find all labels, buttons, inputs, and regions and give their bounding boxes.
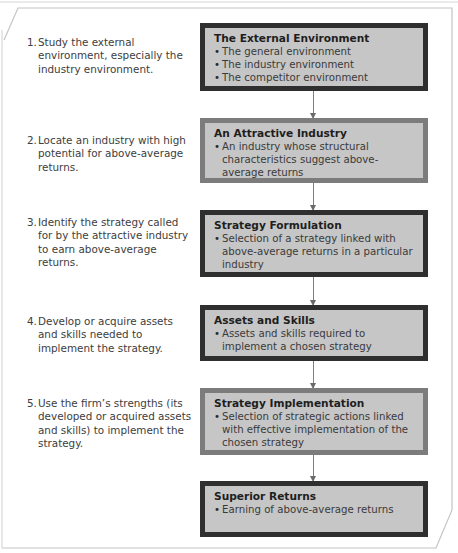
step-text: Develop or acquire assets and skills nee… [27,315,192,355]
step-number: 1. [27,36,37,49]
box-superior-returns: Superior Returns Earning of above-averag… [200,481,428,537]
arrow-down-icon [313,455,314,481]
box-title: Strategy Formulation [214,219,413,232]
bullet-item: Selection of strategic actions linked wi… [214,410,413,449]
bullet-item: Selection of a strategy linked with abov… [214,232,413,271]
arrow-down-icon [313,277,314,305]
step-number: 3. [27,216,37,229]
box-title: An Attractive Industry [214,127,413,140]
arrow-down-icon [313,183,314,210]
arrow-down-icon [313,91,314,118]
step-4: 4. Develop or acquire assets and skills … [27,315,192,355]
step-5: 5. Use the firm’s strengths (its develop… [27,397,192,451]
bullet-item: Assets and skills required to implement … [214,327,413,353]
arrow-down-icon [313,361,314,388]
bullet-item: The general environment [214,45,413,58]
step-number: 2. [27,134,37,147]
box-title: The External Environment [214,32,413,45]
bullet-item: An industry whose structural characteris… [214,140,413,179]
box-attractive-industry: An Attractive Industry An industry whose… [200,118,428,183]
box-bullets: Earning of above-average returns [214,503,413,516]
box-bullets: Assets and skills required to implement … [214,327,413,353]
bullet-item: Earning of above-average returns [214,503,413,516]
step-text: Locate an industry with high potential f… [27,134,192,174]
box-title: Superior Returns [214,490,413,503]
box-title: Assets and Skills [214,314,413,327]
box-title: Strategy Implementation [214,397,413,410]
box-bullets: Selection of strategic actions linked wi… [214,410,413,449]
step-text: Identify the strategy called for by the … [27,216,192,270]
bullet-item: The industry environment [214,58,413,71]
box-bullets: An industry whose structural characteris… [214,140,413,179]
step-1: 1. Study the external environment, espec… [27,36,192,76]
bullet-item: The competitor environment [214,71,413,84]
box-external-environment: The External Environment The general env… [200,23,428,91]
box-bullets: Selection of a strategy linked with abov… [214,232,413,271]
step-text: Study the external environment, especial… [27,36,192,76]
box-bullets: The general environment The industry env… [214,45,413,84]
step-2: 2. Locate an industry with high potentia… [27,134,192,174]
box-strategy-formulation: Strategy Formulation Selection of a stra… [200,210,428,277]
step-number: 4. [27,315,37,328]
box-assets-and-skills: Assets and Skills Assets and skills requ… [200,305,428,361]
step-3: 3. Identify the strategy called for by t… [27,216,192,270]
step-text: Use the firm’s strengths (its developed … [27,397,192,451]
box-strategy-implementation: Strategy Implementation Selection of str… [200,388,428,455]
step-number: 5. [27,397,37,410]
